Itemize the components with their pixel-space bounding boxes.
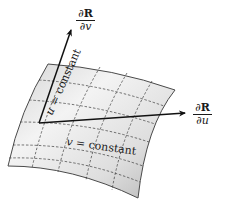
fraction-denominator: ∂u — [193, 115, 212, 127]
fraction-denominator: ∂v — [76, 21, 95, 33]
surface-patch — [8, 64, 175, 198]
label-dR-dv: ∂R ∂v — [76, 8, 95, 33]
label-dR-du: ∂R ∂u — [193, 102, 212, 127]
